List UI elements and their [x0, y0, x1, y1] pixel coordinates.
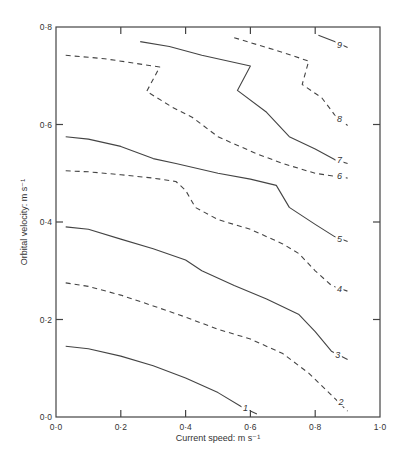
x-tick-label: 0·8: [309, 422, 322, 432]
x-tick-label: 0·6: [244, 422, 257, 432]
x-tick-label: 0·4: [179, 422, 192, 432]
contour-lines: [66, 35, 348, 414]
x-axis-label: Current speed: m s⁻¹: [176, 433, 261, 443]
x-axis-ticks: 0·00·20·40·60·81·0: [50, 27, 387, 432]
contour-line-5: [66, 137, 348, 242]
contour-labels: 123456789: [242, 39, 346, 413]
contour-line-1: [66, 346, 257, 414]
contour-label-2: 2: [338, 397, 344, 407]
y-tick-label: 0·2: [40, 315, 53, 325]
contour-line-3: [66, 227, 348, 360]
contour-label-1: 1: [243, 403, 248, 413]
contour-label-9: 9: [337, 40, 342, 50]
contour-label-6: 6: [337, 171, 342, 181]
y-tick-label: 0·4: [40, 217, 53, 227]
y-tick-label: 0·0: [40, 412, 53, 422]
y-tick-label: 0·8: [40, 22, 53, 32]
y-axis-ticks: 0·00·20·40·60·8: [40, 22, 380, 422]
contour-line-2: [66, 283, 348, 411]
x-tick-label: 1·0: [374, 422, 387, 432]
plot-frame: [56, 27, 380, 417]
contour-label-3: 3: [335, 350, 340, 360]
x-tick-label: 0·2: [115, 422, 128, 432]
contour-chart: 0·00·20·40·60·81·0 0·00·20·40·60·8 12345…: [0, 0, 403, 471]
contour-label-4: 4: [337, 284, 342, 294]
plot-area-border: [56, 27, 380, 417]
contour-line-8: [234, 38, 347, 126]
contour-line-7: [140, 42, 347, 164]
y-tick-label: 0·6: [40, 120, 53, 130]
contour-label-8: 8: [337, 114, 342, 124]
y-axis-label: Orbital velocity: m s⁻¹: [19, 179, 29, 266]
x-tick-label: 0·0: [50, 422, 63, 432]
